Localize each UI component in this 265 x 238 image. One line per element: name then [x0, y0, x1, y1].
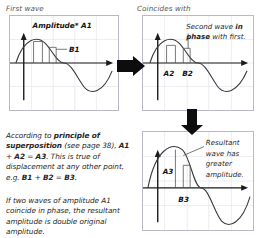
label-b3: B3 [178, 195, 189, 204]
label-b1: B1 [69, 45, 80, 54]
label-a3: A3 [162, 167, 174, 176]
note-text-1: Second wave [186, 22, 235, 31]
sp-7: = [54, 173, 65, 182]
caption-coincides-with: Coincides with [137, 4, 191, 13]
sp-b1: B1 [22, 173, 33, 182]
panel-first-wave: Amplitude* A1 B1 [9, 15, 119, 111]
figure-root: First wave Coincides with [0, 0, 265, 238]
note-text-2b: phase [185, 33, 210, 42]
text-conclusion: If two waves of amplitude A1 coincide in… [6, 196, 136, 238]
first-wave-plot: Amplitude* A1 B1 [10, 16, 118, 110]
wave-curve [148, 147, 250, 225]
label-amplitude-a1: Amplitude* A1 [32, 21, 92, 30]
note-resultant-line3: greater [206, 159, 233, 168]
arrow-right-icon [117, 56, 145, 76]
resultant-wave-plot: A3 B3 Resultant wave has greater amplitu… [143, 132, 253, 230]
sp-a3: A3 [36, 152, 47, 161]
axes [143, 150, 248, 223]
second-wave-plot: A2 B2 Second wave in phase with first. [143, 16, 253, 110]
panel-second-wave: A2 B2 Second wave in phase with first. [142, 15, 254, 111]
amplitude-markers [175, 147, 203, 188]
note-text-1b: in [235, 22, 242, 31]
sp-b3: B3 [64, 173, 75, 182]
amplitude-markers [34, 41, 67, 63]
sp-6: + [32, 173, 43, 182]
sp-1: According to [6, 131, 54, 140]
sp-a1: A1 [119, 141, 130, 150]
label-a2: A2 [163, 69, 175, 78]
note-resultant-line2: wave has [206, 149, 240, 158]
text-superposition: According to principle of superposition … [6, 131, 132, 183]
caption-first-wave: First wave [6, 4, 44, 13]
note-second-wave-line1: Second wave in [186, 22, 243, 31]
wave-curve [16, 39, 112, 91]
panel-resultant-wave: A3 B3 Resultant wave has greater amplitu… [142, 131, 254, 231]
note-resultant-line1: Resultant [206, 138, 240, 147]
sp-4: = [25, 152, 36, 161]
sp-a2: A2 [14, 152, 25, 161]
arrow-down-icon [181, 109, 203, 135]
note-resultant-line4: amplitude. [206, 170, 244, 179]
sp-8: . [75, 173, 77, 182]
label-b2: B2 [182, 69, 193, 78]
note-second-wave-line2: phase with first. [185, 33, 245, 42]
note-text-2: with first. [210, 33, 246, 42]
sp-2: (see page 38), [62, 141, 119, 150]
sp-b2: B2 [43, 173, 54, 182]
